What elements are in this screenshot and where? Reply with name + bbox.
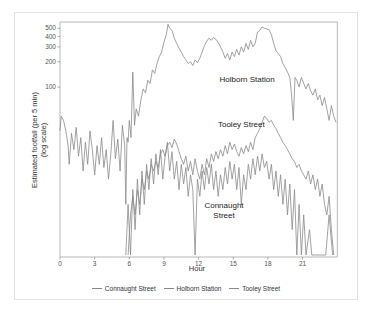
series-label: Tooley Street (218, 120, 265, 129)
series-line-connaught-street (126, 142, 333, 255)
x-tick-label: 21 (299, 260, 307, 267)
series-line-holborn-station (60, 24, 336, 204)
chart-legend: Connaught Street Holborn Station Tooley … (0, 283, 372, 292)
legend-item-connaught: Connaught Street (92, 285, 156, 292)
legend-label: Connaught Street (105, 285, 156, 292)
x-tick-label: 18 (264, 260, 272, 267)
legend-item-holborn: Holborn Station (164, 285, 222, 292)
legend-line-icon (229, 288, 239, 289)
series-labels: ConnaughtStreetHolborn StationTooley Str… (204, 75, 274, 220)
x-axis-title: Hour (189, 264, 206, 273)
legend-label: Tooley Street (242, 285, 280, 292)
legend-item-tooley: Tooley Street (229, 285, 280, 292)
legend-label: Holborn Station (177, 285, 222, 292)
legend-line-icon (164, 288, 174, 289)
y-tick-label: 100 (45, 83, 56, 90)
y-tick-label: 500 (45, 24, 56, 31)
chart-series (60, 24, 336, 255)
series-label: Street (213, 211, 235, 220)
y-axis-title: Estimated footfall (per 5 min) (30, 92, 39, 188)
x-tick-label: 6 (127, 260, 131, 267)
x-tick-label: 3 (93, 260, 97, 267)
x-tick-label: 15 (230, 260, 238, 267)
y-axis-subtitle: (log scale) (39, 122, 48, 157)
x-tick-label: 9 (162, 260, 166, 267)
y-tick-label: 400 (45, 33, 56, 40)
y-tick-label: 300 (45, 43, 56, 50)
legend-line-icon (92, 288, 102, 289)
y-tick-label: 200 (45, 58, 56, 65)
x-tick-label: 0 (58, 260, 62, 267)
line-chart: 036912151821100200300400500 ConnaughtStr… (0, 0, 372, 311)
series-label: Connaught (204, 201, 244, 210)
series-label: Holborn Station (220, 75, 275, 84)
